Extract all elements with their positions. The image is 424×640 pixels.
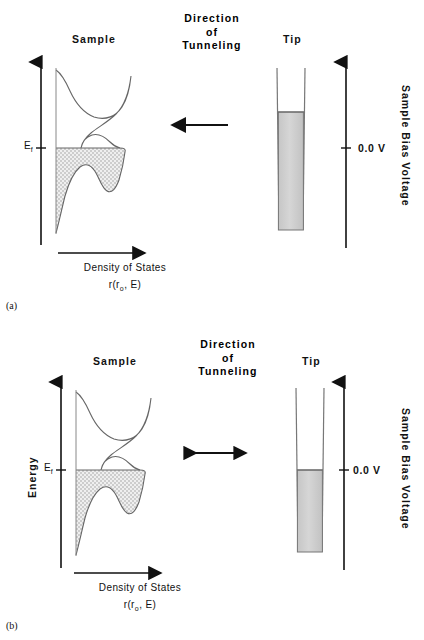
bias-voltage-axis-b — [339, 382, 349, 570]
panel-a-graphics — [0, 0, 424, 320]
bias-voltage-axis-a — [341, 62, 351, 248]
tip-b — [296, 388, 324, 552]
panel-a: Direction of Tunneling Sample Tip Ef 0.0… — [0, 0, 424, 320]
energy-axis-b — [56, 382, 66, 568]
panel-b: Direction of Tunneling Sample Tip Energy… — [0, 320, 424, 640]
tip-a — [277, 68, 305, 230]
dos-curve-b — [76, 390, 151, 556]
energy-axis-a — [36, 62, 46, 245]
dos-curve-a — [56, 68, 131, 234]
panel-b-graphics — [0, 320, 424, 640]
